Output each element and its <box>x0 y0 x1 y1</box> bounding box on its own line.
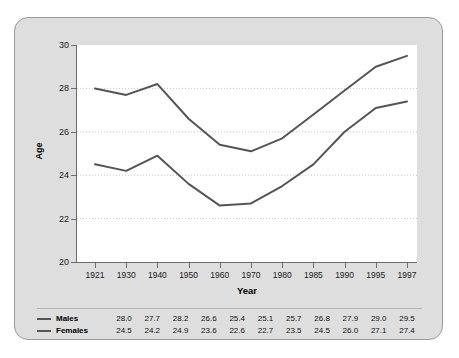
y-axis-ticks: 202224262830 <box>15 18 77 341</box>
y-tick-label: 20 <box>45 257 69 267</box>
table-cell: 24.5 <box>307 325 337 336</box>
table-cell: 28.2 <box>166 313 196 324</box>
y-tick <box>71 88 77 89</box>
table-cell: 25.4 <box>222 313 252 324</box>
table-cell: 23.5 <box>279 325 309 336</box>
x-tick <box>157 263 158 268</box>
table-cell: 29.5 <box>392 313 422 324</box>
table-cell: 22.7 <box>251 325 281 336</box>
table-cell: 24.9 <box>166 325 196 336</box>
table-cell: 25.7 <box>279 313 309 324</box>
table-cell: 27.9 <box>335 313 365 324</box>
table-row: Males28.027.728.226.625.425.125.726.827.… <box>37 313 422 325</box>
x-tick <box>345 263 346 268</box>
x-tick <box>220 263 221 268</box>
table-row: Females24.524.224.923.622.622.723.524.52… <box>37 325 422 337</box>
x-tick <box>251 263 252 268</box>
series-line-males <box>95 56 407 151</box>
y-tick-label: 26 <box>45 127 69 137</box>
chart-panel: 202224262830 192119301940195019601970198… <box>14 17 443 340</box>
series-line-females <box>95 101 407 205</box>
y-tick-label: 28 <box>45 83 69 93</box>
legend-label: Females <box>56 325 88 336</box>
legend-swatch <box>37 318 51 320</box>
table-cell: 27.7 <box>137 313 167 324</box>
x-tick <box>282 263 283 268</box>
table-cell: 27.1 <box>364 325 394 336</box>
y-tick <box>71 219 77 220</box>
x-tick <box>376 263 377 268</box>
line-chart-svg <box>77 45 417 262</box>
plot-region <box>77 45 417 262</box>
table-cell: 24.2 <box>137 325 167 336</box>
table-cell: 24.5 <box>109 325 139 336</box>
data-table: Males28.027.728.226.625.425.125.726.827.… <box>37 308 422 337</box>
x-tick <box>313 263 314 268</box>
legend-swatch <box>37 330 51 332</box>
x-axis-title: Year <box>77 285 417 296</box>
y-tick-label: 30 <box>45 40 69 50</box>
table-cell: 28.0 <box>109 313 139 324</box>
y-tick <box>71 45 77 46</box>
table-cell: 22.6 <box>222 325 252 336</box>
y-tick <box>71 175 77 176</box>
table-cell: 26.6 <box>194 313 224 324</box>
table-cell: 26.8 <box>307 313 337 324</box>
x-tick <box>126 263 127 268</box>
table-cell: 23.6 <box>194 325 224 336</box>
y-tick-label: 24 <box>45 170 69 180</box>
table-cell: 25.1 <box>251 313 281 324</box>
y-tick-label: 22 <box>45 214 69 224</box>
series-lines <box>95 56 407 206</box>
x-tick <box>95 263 96 268</box>
table-cell: 29.0 <box>364 313 394 324</box>
table-cell: 26.0 <box>335 325 365 336</box>
legend-label: Males <box>56 313 78 324</box>
y-tick <box>71 262 77 263</box>
y-axis-title: Age <box>34 121 44 181</box>
y-tick <box>71 132 77 133</box>
x-tick <box>189 263 190 268</box>
gridlines <box>77 88 417 218</box>
table-cell: 27.4 <box>392 325 422 336</box>
x-tick-label: 1997 <box>387 270 427 280</box>
x-tick <box>407 263 408 268</box>
